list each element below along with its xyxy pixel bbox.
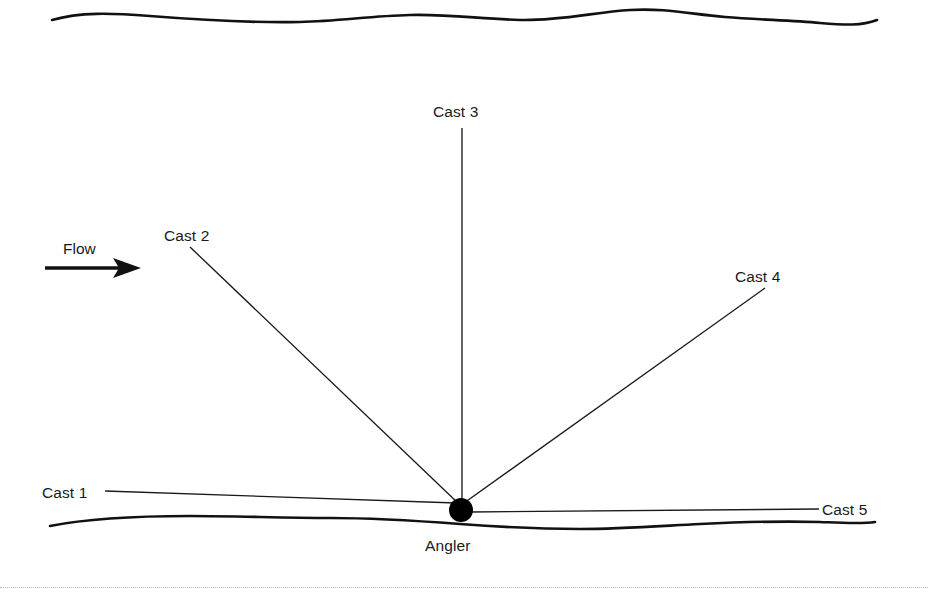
- cast-4-line: [464, 288, 765, 503]
- cast-2-label: Cast 2: [164, 227, 209, 244]
- cast-5-line: [470, 509, 819, 512]
- cast-5-label: Cast 5: [822, 501, 867, 518]
- cast-2-line: [190, 247, 459, 504]
- footer-divider: [0, 587, 928, 588]
- diagram-canvas: Flow Cast 1 Cast 2 Cast 3 Cast 4 Cast 5 …: [0, 0, 928, 602]
- cast-1-line: [105, 491, 456, 503]
- cast-3-label: Cast 3: [433, 103, 478, 120]
- far-bank-line: [52, 10, 877, 25]
- cast-4-label: Cast 4: [735, 268, 781, 285]
- cast-angles-diagram: Flow Cast 1 Cast 2 Cast 3 Cast 4 Cast 5 …: [0, 0, 928, 602]
- flow-label: Flow: [63, 240, 97, 257]
- angler-marker-dot: [449, 498, 473, 522]
- angler-label: Angler: [425, 537, 470, 554]
- cast-1-label: Cast 1: [42, 484, 87, 501]
